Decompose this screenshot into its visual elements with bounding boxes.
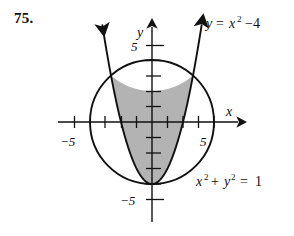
circle-eq-term1-base: x (195, 174, 203, 189)
circle-eq-equals: = (240, 174, 248, 189)
coordinate-plane-figure: x y −5 5 5 −5 y = x 2 −4 x 2 + y 2 = 1 (0, 0, 294, 236)
circle-equation-label: x 2 + y 2 = 1 (195, 172, 262, 189)
parabola-equation-label: y = x 2 −4 (204, 14, 260, 31)
circle-eq-term2-exponent: 2 (231, 172, 236, 182)
x-axis-label: x (225, 104, 233, 119)
figure-page: 75. (0, 0, 294, 236)
parabola-eq-base: x (228, 16, 236, 31)
y-tick-label-5: 5 (131, 39, 138, 54)
circle-eq-rhs: 1 (255, 174, 262, 189)
y-axis-label: y (135, 25, 144, 40)
x-tick-label-neg5: −5 (60, 134, 76, 149)
parabola-eq-tail: −4 (245, 16, 260, 31)
circle-eq-plus: + (211, 174, 219, 189)
circle-eq-term1-exponent: 2 (204, 172, 209, 182)
x-tick-label-5: 5 (200, 134, 207, 149)
parabola-eq-exponent: 2 (237, 14, 242, 24)
parabola-eq-lhs: y (204, 16, 213, 31)
y-tick-label-neg5: −5 (120, 193, 136, 208)
parabola-eq-equals: = (216, 16, 224, 31)
circle-eq-term2-base: y (222, 174, 231, 189)
